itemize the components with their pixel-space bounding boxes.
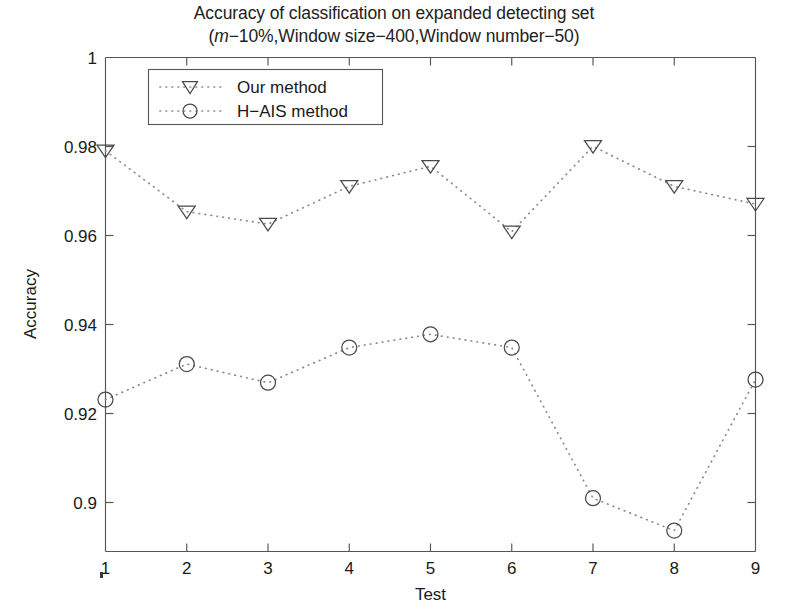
triangle-down-icon — [666, 181, 683, 194]
circle-icon — [342, 340, 357, 355]
figure-container: Accuracy of classification on expanded d… — [0, 0, 788, 613]
circle-icon — [261, 375, 276, 390]
y-tick-label-0_9: 0.9 — [73, 494, 97, 513]
x-axis-ticks — [187, 58, 675, 552]
y-tick-label-0_94: 0.94 — [64, 316, 97, 335]
y-axis-label: Accuracy — [21, 269, 40, 339]
triangle-down-icon — [341, 181, 358, 194]
x-tick-label-9: 9 — [751, 559, 760, 578]
triangle-down-icon — [422, 161, 439, 174]
x-tick-label-7: 7 — [588, 559, 597, 578]
series-our-method — [97, 141, 764, 239]
x-tick-label-2: 2 — [182, 559, 191, 578]
x-axis-tick-labels: 1 2 3 4 5 6 7 8 9 — [101, 559, 760, 578]
x-tick-label-4: 4 — [345, 559, 354, 578]
chart-title: Accuracy of classification on expanded d… — [0, 2, 788, 48]
data-series-layer — [97, 141, 764, 538]
y-axis-ticks — [106, 147, 756, 503]
x-tick-label-8: 8 — [670, 559, 679, 578]
series-hais-method — [98, 327, 763, 538]
x-tick-label-3: 3 — [263, 559, 272, 578]
circle-icon — [179, 357, 194, 372]
legend-label-hais-method: H−AIS method — [237, 102, 348, 121]
chart-legend: Our method H−AIS method — [149, 70, 383, 125]
series-line — [106, 334, 756, 530]
y-tick-label-0_92: 0.92 — [64, 405, 97, 424]
chart-title-line-1: Accuracy of classification on expanded d… — [0, 2, 788, 25]
triangle-down-icon — [503, 226, 520, 239]
series-line — [106, 146, 756, 231]
scan-artifact — [100, 572, 103, 578]
y-tick-label-0_96: 0.96 — [64, 227, 97, 246]
x-tick-label-5: 5 — [426, 559, 435, 578]
y-tick-label-1: 1 — [88, 49, 97, 68]
legend-label-our-method: Our method — [237, 78, 327, 97]
title-variable-m: m — [214, 26, 228, 46]
triangle-down-icon — [585, 141, 602, 154]
x-tick-label-6: 6 — [507, 559, 516, 578]
triangle-down-icon — [260, 218, 277, 231]
circle-icon — [586, 491, 601, 506]
chart-plot: 1 0.98 0.96 0.94 0.92 0.9 1 — [0, 0, 788, 613]
y-tick-label-0_98: 0.98 — [64, 138, 97, 157]
title-params: −10%,Window size−400,Window number−50) — [229, 26, 580, 46]
y-axis-tick-labels: 1 0.98 0.96 0.94 0.92 0.9 — [64, 49, 97, 513]
chart-title-line-2: (m−10%,Window size−400,Window number−50) — [0, 25, 788, 48]
x-axis-label: Test — [415, 585, 446, 604]
